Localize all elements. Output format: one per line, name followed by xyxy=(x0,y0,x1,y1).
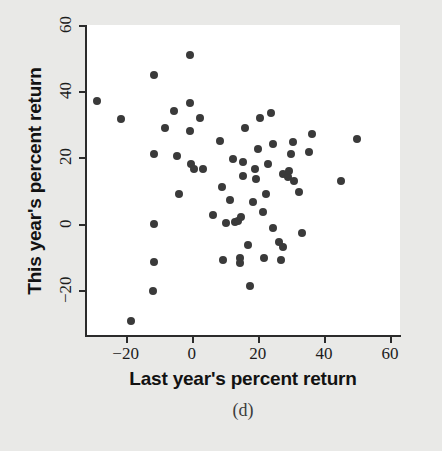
x-axis-line xyxy=(85,335,401,337)
data-point xyxy=(170,107,178,115)
x-axis-tick-label: 20 xyxy=(238,344,278,364)
data-point xyxy=(295,188,303,196)
x-axis-tick xyxy=(324,337,326,343)
data-point xyxy=(175,190,183,198)
data-point xyxy=(229,155,237,163)
data-point xyxy=(219,256,227,264)
data-point xyxy=(285,167,293,175)
x-axis-tick-label: 0 xyxy=(172,344,212,364)
data-point xyxy=(353,135,361,143)
panel-caption: (d) xyxy=(86,400,400,421)
data-point xyxy=(244,241,252,249)
scatterplot-figure: −200204060−200204060 Last year's percent… xyxy=(0,0,442,451)
data-point xyxy=(150,150,158,158)
data-point xyxy=(209,211,217,219)
data-point xyxy=(237,213,245,221)
data-point xyxy=(173,152,181,160)
y-axis-tick-label: 40 xyxy=(56,71,76,111)
data-point xyxy=(252,175,260,183)
data-point xyxy=(287,150,295,158)
x-axis-tick-label: −20 xyxy=(106,344,146,364)
data-point xyxy=(222,219,230,227)
x-axis-tick-label: 40 xyxy=(304,344,344,364)
x-axis-title: Last year's percent return xyxy=(86,368,400,390)
y-axis-line xyxy=(85,25,87,337)
data-point xyxy=(117,115,125,123)
data-point xyxy=(190,165,198,173)
data-point xyxy=(264,160,272,168)
data-point xyxy=(262,190,270,198)
data-point xyxy=(249,198,257,206)
data-point xyxy=(279,243,287,251)
data-point xyxy=(150,258,158,266)
data-point xyxy=(149,287,157,295)
data-point xyxy=(269,140,277,148)
data-point xyxy=(290,177,298,185)
data-point xyxy=(305,148,313,156)
y-axis-tick-label: 60 xyxy=(56,5,76,45)
data-point xyxy=(256,114,264,122)
data-point xyxy=(186,127,194,135)
data-point xyxy=(260,254,268,262)
data-point xyxy=(239,172,247,180)
y-axis-tick xyxy=(79,25,85,27)
data-point xyxy=(236,259,244,267)
data-point xyxy=(298,229,306,237)
y-axis-title: This year's percent return xyxy=(24,16,46,346)
y-axis-tick xyxy=(79,157,85,159)
y-axis-tick-label: 20 xyxy=(56,137,76,177)
x-axis-tick xyxy=(192,337,194,343)
data-point xyxy=(150,71,158,79)
data-point xyxy=(239,158,247,166)
x-axis-tick xyxy=(126,337,128,343)
y-axis-tick-label: 0 xyxy=(56,204,76,244)
data-point xyxy=(186,99,194,107)
data-point xyxy=(259,208,267,216)
y-axis-tick-label: −20 xyxy=(56,270,76,310)
data-point xyxy=(216,137,224,145)
data-point xyxy=(186,51,194,59)
data-point xyxy=(93,97,101,105)
data-point xyxy=(199,165,207,173)
y-axis-tick xyxy=(79,91,85,93)
data-points-layer xyxy=(86,25,400,336)
data-point xyxy=(269,224,277,232)
data-point xyxy=(289,138,297,146)
x-axis-tick-label: 60 xyxy=(370,344,410,364)
x-axis-tick xyxy=(390,337,392,343)
data-point xyxy=(226,196,234,204)
data-point xyxy=(251,165,259,173)
data-point xyxy=(277,256,285,264)
data-point xyxy=(150,220,158,228)
data-point xyxy=(218,183,226,191)
y-axis-tick xyxy=(79,290,85,292)
data-point xyxy=(246,282,254,290)
data-point xyxy=(196,114,204,122)
y-axis-tick xyxy=(79,224,85,226)
data-point xyxy=(254,145,262,153)
x-axis-tick xyxy=(258,337,260,343)
data-point xyxy=(241,124,249,132)
data-point xyxy=(308,130,316,138)
data-point xyxy=(267,109,275,117)
plot-panel xyxy=(86,25,400,336)
data-point xyxy=(337,177,345,185)
data-point xyxy=(161,124,169,132)
data-point xyxy=(127,317,135,325)
